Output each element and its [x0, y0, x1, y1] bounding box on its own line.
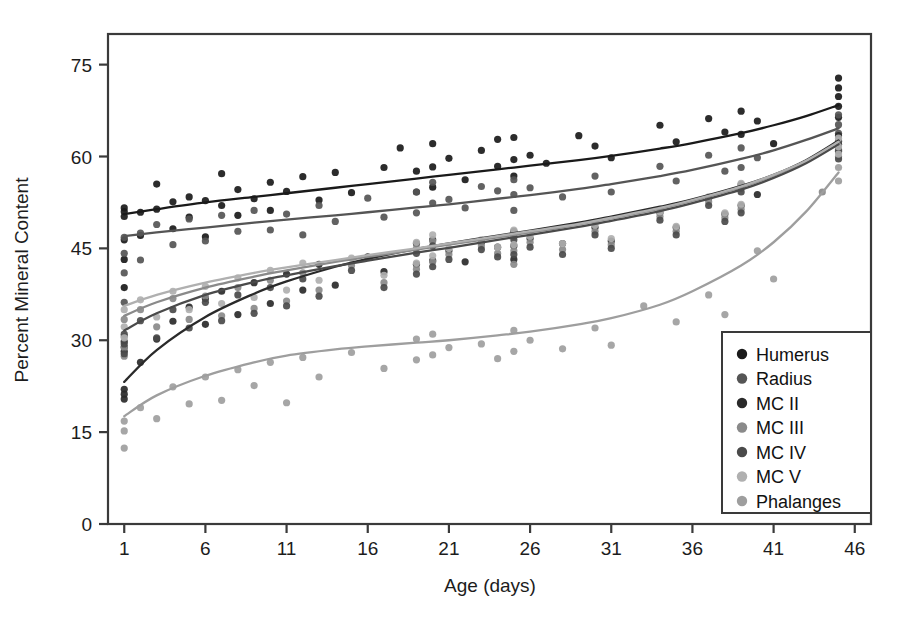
data-point: [413, 239, 420, 246]
legend-label-mc-iv[interactable]: MC IV: [756, 443, 806, 463]
data-point: [186, 316, 193, 323]
plot-background: [0, 0, 899, 630]
data-point: [121, 418, 128, 425]
data-point: [315, 373, 322, 380]
data-point: [429, 263, 436, 270]
data-point: [121, 204, 128, 211]
data-point: [721, 128, 728, 135]
y-tick-label: 0: [81, 514, 92, 535]
data-point: [835, 164, 842, 171]
data-point: [380, 272, 387, 279]
data-point: [510, 241, 517, 248]
data-point: [267, 179, 274, 186]
data-point: [364, 195, 371, 202]
y-tick-label: 60: [71, 147, 92, 168]
x-tick-label: 41: [763, 538, 784, 559]
legend-label-mc-v[interactable]: MC V: [756, 467, 801, 487]
data-point: [526, 244, 533, 251]
legend-marker-mc-ii[interactable]: [737, 398, 747, 408]
data-point: [251, 207, 258, 214]
data-point: [445, 344, 452, 351]
data-point: [835, 150, 842, 157]
legend-marker-humerus[interactable]: [737, 349, 747, 359]
data-point: [478, 340, 485, 347]
data-point: [299, 354, 306, 361]
data-point: [510, 156, 517, 163]
data-point: [510, 261, 517, 268]
data-point: [705, 115, 712, 122]
legend-label-phalanges[interactable]: Phalanges: [756, 492, 841, 512]
data-point: [673, 177, 680, 184]
y-axis-label: Percent Mineral Content: [11, 177, 32, 383]
data-point: [591, 173, 598, 180]
data-point: [186, 215, 193, 222]
data-point: [153, 415, 160, 422]
x-tick-label: 31: [601, 538, 622, 559]
y-tick-label: 30: [71, 330, 92, 351]
data-point: [510, 207, 517, 214]
legend-marker-radius[interactable]: [737, 373, 747, 383]
data-point: [494, 136, 501, 143]
data-point: [267, 207, 274, 214]
data-point: [770, 140, 777, 147]
data-point: [494, 253, 501, 260]
legend-marker-mc-v[interactable]: [737, 471, 747, 481]
legend-label-radius[interactable]: Radius: [756, 369, 812, 389]
data-point: [608, 235, 615, 242]
data-point: [299, 286, 306, 293]
legend-marker-mc-iii[interactable]: [737, 422, 747, 432]
data-point: [835, 93, 842, 100]
data-point: [218, 202, 225, 209]
legend-marker-phalanges[interactable]: [737, 496, 747, 506]
data-point: [591, 324, 598, 331]
data-point: [267, 300, 274, 307]
data-point: [153, 180, 160, 187]
data-point: [738, 201, 745, 208]
data-point: [234, 228, 241, 235]
legend-label-mc-iii[interactable]: MC III: [756, 418, 804, 438]
legend[interactable]: HumerusRadiusMC IIMC IIIMC IVMC VPhalang…: [722, 332, 871, 513]
data-point: [608, 342, 615, 349]
data-point: [721, 218, 728, 225]
data-point: [283, 286, 290, 293]
chart-figure: 161116212631364146 01530456075 Age (days…: [0, 0, 899, 630]
data-point: [721, 311, 728, 318]
legend-label-mc-ii[interactable]: MC II: [756, 394, 799, 414]
data-point: [429, 252, 436, 259]
data-point: [234, 212, 241, 219]
data-point: [218, 212, 225, 219]
data-point: [835, 84, 842, 91]
data-point: [429, 163, 436, 170]
data-point: [121, 350, 128, 357]
data-point: [186, 400, 193, 407]
data-point: [608, 245, 615, 252]
data-point: [380, 214, 387, 221]
data-point: [738, 209, 745, 216]
data-point: [153, 323, 160, 330]
legend-marker-mc-iv[interactable]: [737, 447, 747, 457]
data-point: [121, 250, 128, 257]
data-point: [494, 355, 501, 362]
data-point: [575, 132, 582, 139]
data-point: [121, 316, 128, 323]
data-point: [591, 231, 598, 238]
data-point: [186, 193, 193, 200]
legend-label-humerus[interactable]: Humerus: [756, 345, 829, 365]
data-point: [429, 140, 436, 147]
data-point: [299, 231, 306, 238]
data-point: [559, 345, 566, 352]
data-point: [478, 246, 485, 253]
data-point: [413, 259, 420, 266]
data-point: [121, 306, 128, 313]
data-point: [283, 399, 290, 406]
data-point: [526, 337, 533, 344]
data-point: [656, 163, 663, 170]
data-point: [429, 331, 436, 338]
data-point: [218, 397, 225, 404]
data-point: [462, 258, 469, 265]
y-tick-label: 15: [71, 422, 92, 443]
data-point: [121, 395, 128, 402]
scatter-plot-svg: 161116212631364146 01530456075 Age (days…: [0, 0, 899, 630]
y-tick-label: 75: [71, 55, 92, 76]
data-point: [348, 349, 355, 356]
